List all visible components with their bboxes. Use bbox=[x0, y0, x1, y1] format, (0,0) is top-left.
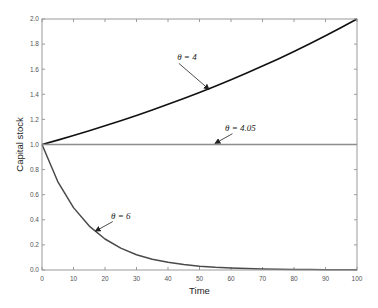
x-tick-label: 0 bbox=[40, 275, 44, 282]
y-tick-label: 1.4 bbox=[30, 91, 39, 98]
y-tick-label: 0.2 bbox=[30, 241, 39, 248]
y-tick-label: 1.6 bbox=[30, 66, 39, 73]
y-tick-label: 0.0 bbox=[30, 266, 39, 273]
annotation-arrow bbox=[215, 134, 232, 144]
series-line-3 bbox=[42, 145, 357, 270]
x-tick-label: 40 bbox=[164, 275, 172, 282]
y-axis-label: Capital stock bbox=[14, 117, 25, 172]
y-tick-label: 0.4 bbox=[30, 216, 39, 223]
x-tick-label: 100 bbox=[352, 275, 363, 282]
annotation-label: θ = 4 bbox=[177, 52, 197, 62]
x-tick-label: 30 bbox=[133, 275, 141, 282]
annotation-label: θ = 6 bbox=[111, 211, 131, 221]
x-tick-label: 20 bbox=[101, 275, 109, 282]
x-tick-label: 80 bbox=[290, 275, 298, 282]
annotation-label: θ = 4.05 bbox=[225, 123, 256, 133]
x-tick-label: 60 bbox=[227, 275, 235, 282]
x-tick-label: 50 bbox=[196, 275, 204, 282]
x-tick-label: 90 bbox=[322, 275, 330, 282]
y-tick-label: 0.6 bbox=[30, 191, 39, 198]
y-tick-label: 1.2 bbox=[30, 116, 39, 123]
x-tick-label: 10 bbox=[70, 275, 78, 282]
capital-stock-chart: 01020304050607080901000.00.20.40.60.81.0… bbox=[0, 0, 378, 308]
x-axis-label: Time bbox=[189, 285, 210, 296]
y-tick-label: 0.8 bbox=[30, 166, 39, 173]
y-tick-label: 1.0 bbox=[30, 141, 39, 148]
y-tick-label: 2.0 bbox=[30, 15, 39, 22]
series-lines bbox=[42, 19, 357, 270]
series-line-1 bbox=[42, 19, 357, 145]
annotation-arrow bbox=[96, 222, 113, 232]
x-tick-label: 70 bbox=[259, 275, 267, 282]
y-tick-label: 1.8 bbox=[30, 40, 39, 47]
annotation-arrow bbox=[179, 63, 209, 89]
